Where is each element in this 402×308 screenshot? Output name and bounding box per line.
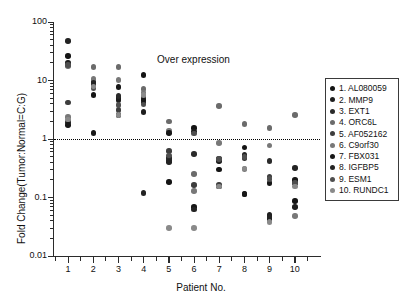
legend-item: 10. RUNDC1	[330, 185, 393, 196]
x-tick-minor	[168, 257, 169, 261]
legend-item: 6. C9orf30	[330, 139, 393, 150]
legend-marker-icon	[330, 165, 335, 170]
y-tick-minor	[50, 179, 54, 180]
x-tick-minor	[131, 257, 132, 261]
y-tick-minor	[50, 148, 54, 149]
legend-marker-icon	[330, 143, 335, 148]
x-axis-title: Patient No.	[0, 282, 402, 293]
legend-item-label: 2. MMP9	[339, 96, 373, 105]
x-tick-label: 8	[232, 265, 256, 274]
data-point	[216, 184, 222, 190]
data-point	[292, 112, 298, 118]
y-axis-title: Fold Change(Tumor:Normal=C:G)	[16, 93, 27, 244]
data-point	[292, 198, 298, 204]
data-point	[242, 191, 248, 197]
legend-item: 5. AF052162	[330, 128, 393, 139]
x-tick-minor	[143, 257, 144, 261]
y-tick-minor	[50, 144, 54, 145]
x-tick-label: 6	[182, 265, 206, 274]
data-point	[116, 77, 122, 83]
data-point	[242, 154, 248, 160]
legend-item-label: 5. AF052162	[339, 130, 387, 139]
y-tick-minor	[50, 52, 54, 53]
x-tick-label: 9	[258, 265, 282, 274]
data-point	[292, 204, 298, 210]
y-tick-minor	[50, 169, 54, 170]
legend-marker-icon	[330, 154, 335, 159]
data-point	[65, 62, 71, 68]
x-tick-minor	[194, 257, 195, 261]
x-tick-label: 10	[283, 265, 307, 274]
y-tick-minor	[50, 27, 54, 28]
legend-item-label: 6. C9orf30	[339, 141, 379, 150]
x-tick-minor	[307, 257, 308, 261]
y-tick-major	[48, 22, 54, 23]
legend-item: 7. FBX031	[330, 151, 393, 162]
x-tick-minor	[68, 257, 69, 261]
y-tick-minor	[50, 98, 54, 99]
data-point	[267, 219, 273, 225]
y-tick-minor	[50, 103, 54, 104]
x-tick-minor	[294, 257, 295, 261]
data-point	[166, 159, 172, 165]
data-point	[242, 121, 248, 127]
data-point	[166, 225, 172, 231]
x-tick-minor	[244, 257, 245, 261]
data-point	[166, 153, 172, 159]
y-tick-label: 10	[19, 76, 47, 85]
data-point	[91, 130, 97, 136]
y-tick-major	[48, 80, 54, 81]
data-point	[191, 225, 197, 231]
y-tick-minor	[50, 39, 54, 40]
data-point	[267, 143, 273, 149]
data-point	[141, 72, 147, 78]
data-point	[116, 112, 122, 118]
x-tick-minor	[282, 257, 283, 261]
y-tick-minor	[50, 215, 54, 216]
x-tick-minor	[93, 257, 94, 261]
legend: 1. AL0800592. MMP93. EXT14. ORC6L5. AF05…	[325, 78, 399, 201]
legend-item-label: 1. AL080059	[339, 84, 387, 93]
data-point	[65, 122, 71, 128]
legend-item: 8. IGFBP5	[330, 162, 393, 173]
y-tick-minor	[50, 162, 54, 163]
data-point	[292, 213, 298, 219]
data-point	[141, 102, 147, 108]
y-tick-minor	[50, 93, 54, 94]
x-tick-minor	[219, 257, 220, 261]
data-point	[216, 140, 222, 146]
data-point	[242, 145, 248, 151]
y-tick-minor	[50, 121, 54, 122]
data-point	[267, 158, 273, 164]
y-tick-minor	[50, 34, 54, 35]
legend-item-label: 10. RUNDC1	[339, 186, 389, 195]
x-tick-minor	[231, 257, 232, 261]
x-tick-minor	[269, 257, 270, 261]
y-tick-minor	[50, 111, 54, 112]
y-tick-minor	[50, 210, 54, 211]
x-tick-minor	[105, 257, 106, 261]
legend-item-label: 3. EXT1	[339, 107, 370, 116]
data-point	[91, 92, 97, 98]
data-point	[267, 125, 273, 131]
x-tick-label: 4	[132, 265, 156, 274]
y-tick-minor	[50, 228, 54, 229]
data-point	[141, 190, 147, 196]
figure-scatter-plot: 1001010.10.0112345678910 Fold Change(Tum…	[0, 0, 402, 308]
data-point	[116, 64, 122, 70]
legend-item: 3. EXT1	[330, 106, 393, 117]
x-tick-minor	[118, 257, 119, 261]
data-point	[166, 179, 172, 185]
y-tick-minor	[50, 31, 54, 32]
y-tick-label: 0.01	[19, 251, 47, 260]
data-point	[191, 207, 197, 213]
data-point	[191, 171, 197, 177]
y-tick-minor	[50, 238, 54, 239]
x-tick-label: 5	[157, 265, 181, 274]
x-tick-minor	[181, 257, 182, 261]
data-point	[216, 103, 222, 109]
x-tick-label: 7	[207, 265, 231, 274]
data-point	[65, 38, 71, 44]
y-tick-minor	[50, 83, 54, 84]
x-tick-label: 3	[106, 265, 130, 274]
